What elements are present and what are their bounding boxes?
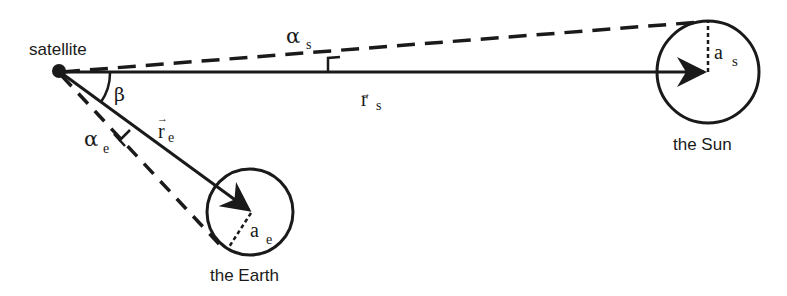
r-s-subscript: s — [376, 98, 381, 113]
alpha-e-label: α — [84, 127, 98, 151]
alpha-s-subscript: s — [306, 37, 311, 52]
sun-tangent-dashed-line — [62, 22, 700, 72]
beta-angle-arc — [101, 73, 110, 102]
a-s-label: a — [714, 41, 723, 63]
earth-radius-dashed — [229, 213, 251, 247]
alpha-e-marker — [119, 130, 130, 141]
r-s-label: r — [361, 88, 368, 110]
earth-tangent-dashed-line — [62, 76, 220, 245]
beta-label: β — [114, 83, 125, 105]
r-e-label: r — [158, 120, 165, 142]
sun-label: the Sun — [673, 135, 732, 154]
satellite-label: satellite — [29, 40, 87, 59]
alpha-s-marker — [328, 57, 340, 72]
a-s-subscript: s — [732, 53, 738, 69]
earth-circle — [207, 169, 293, 255]
earth-label: the Earth — [210, 266, 279, 285]
satellite-dot — [52, 64, 66, 78]
alpha-s-label: α — [286, 24, 300, 48]
alpha-e-subscript: e — [103, 141, 109, 156]
satellite-sun-earth-geometry-diagram: satellite the Sun the Earth β α s α e → … — [0, 0, 787, 296]
a-e-subscript: e — [266, 232, 272, 247]
r-e-subscript: e — [168, 130, 174, 145]
a-e-label: a — [250, 219, 259, 241]
